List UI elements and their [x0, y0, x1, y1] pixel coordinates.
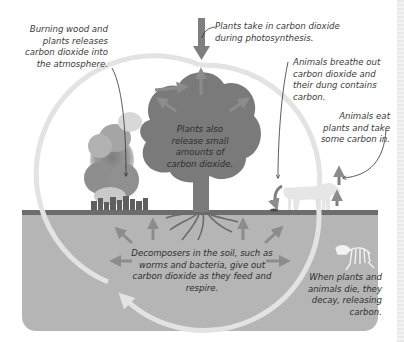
label-decay: When plants and animals die, they decay,…: [290, 272, 382, 318]
label-plants-release: Plants also release small amounts of car…: [161, 124, 239, 170]
tree-roots: [166, 212, 238, 240]
label-animals-breathe: Animals breathe out carbon dioxide and t…: [293, 57, 393, 103]
photosynthesis-arrow: [193, 18, 210, 60]
label-photosynthesis: Plants take in carbon dioxide during pho…: [215, 21, 365, 44]
animal-skeleton-icon: [336, 246, 374, 270]
cow-icon: [283, 183, 340, 210]
label-decomposers: Decomposers in the soil, such as worms a…: [125, 248, 279, 294]
carbon-cycle-diagram: Burning wood and plants releases carbon …: [0, 0, 404, 342]
dung-icon: [270, 208, 278, 211]
label-burning-wood: Burning wood and plants releases carbon …: [20, 24, 108, 70]
label-animals-eat: Animals eat plants and take some carbon …: [320, 111, 390, 146]
smoke-icon: [84, 112, 142, 205]
